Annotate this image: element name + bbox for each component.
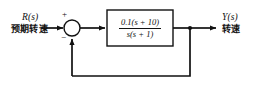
block-diagram-canvas: 0.1(s + 10) s(s + 1) R(s) 预期转速 Y(s) 转速 +… <box>0 0 259 86</box>
output-signal-symbol: Y(s) <box>222 13 238 23</box>
input-signal-caption: 预期转速 <box>11 25 48 34</box>
summing-junction-circle <box>64 20 80 36</box>
transfer-function-expression: 0.1(s + 10) s(s + 1) <box>107 10 173 46</box>
summing-junction-plus-sign: + <box>62 10 67 19</box>
summing-junction-minus-sign: − <box>61 33 66 42</box>
output-signal-caption: 转速 <box>222 25 240 34</box>
transfer-function-numerator: 0.1(s + 10) <box>119 17 161 28</box>
input-signal-symbol: R(s) <box>22 13 38 23</box>
transfer-function-denominator: s(s + 1) <box>125 29 156 40</box>
fraction: 0.1(s + 10) s(s + 1) <box>119 17 161 39</box>
